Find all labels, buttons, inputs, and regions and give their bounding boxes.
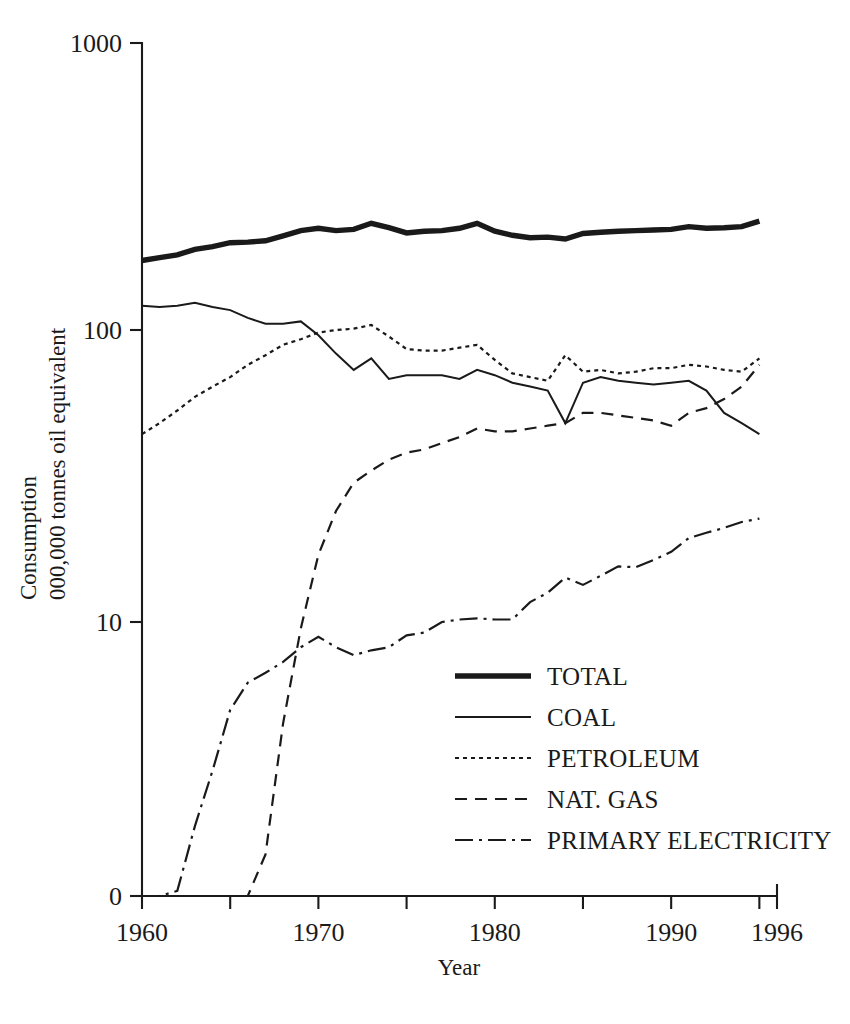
y-tick-label: 1000 <box>70 29 122 58</box>
legend-label-nat-gas: NAT. GAS <box>547 786 659 813</box>
y-axis-title-line2: 000,000 tonnes oil equivalent <box>45 327 70 600</box>
energy-consumption-chart: Consumption 000,000 tonnes oil equivalen… <box>0 0 850 1024</box>
legend-item-nat-gas: NAT. GAS <box>455 786 659 813</box>
series-line-nat-gas <box>142 365 759 896</box>
x-tick-label: 1960 <box>116 918 168 947</box>
x-axis-title: Year <box>438 955 481 980</box>
y-tick-label: 0 <box>109 882 122 911</box>
y-tick-label: 10 <box>96 608 122 637</box>
y-axis-title: Consumption 000,000 tonnes oil equivalen… <box>16 327 70 600</box>
legend-item-primary-electricity: PRIMARY ELECTRICITY <box>455 827 832 854</box>
chart-series <box>142 221 759 896</box>
legend-label-coal: COAL <box>547 704 616 731</box>
legend-item-petroleum: PETROLEUM <box>455 745 700 772</box>
y-axis-ticks: 1000100100 <box>70 29 142 911</box>
y-axis-title-line1: Consumption <box>16 476 41 600</box>
series-line-total <box>142 221 759 260</box>
series-line-petroleum <box>142 325 759 434</box>
legend-label-petroleum: PETROLEUM <box>547 745 700 772</box>
legend-label-total: TOTAL <box>547 663 628 690</box>
x-tick-label: 1980 <box>469 918 521 947</box>
x-axis-ticks: 19601970198019901996 <box>116 896 803 947</box>
legend-label-primary-electricity: PRIMARY ELECTRICITY <box>547 827 832 854</box>
legend-item-coal: COAL <box>455 704 616 731</box>
chart-legend: TOTALCOALPETROLEUMNAT. GASPRIMARY ELECTR… <box>455 663 832 854</box>
chart-canvas: Consumption 000,000 tonnes oil equivalen… <box>0 0 850 1024</box>
x-tick-label: 1996 <box>751 918 803 947</box>
x-tick-label: 1990 <box>645 918 697 947</box>
legend-item-total: TOTAL <box>455 663 628 690</box>
x-tick-label: 1970 <box>292 918 344 947</box>
y-tick-label: 100 <box>83 316 122 345</box>
